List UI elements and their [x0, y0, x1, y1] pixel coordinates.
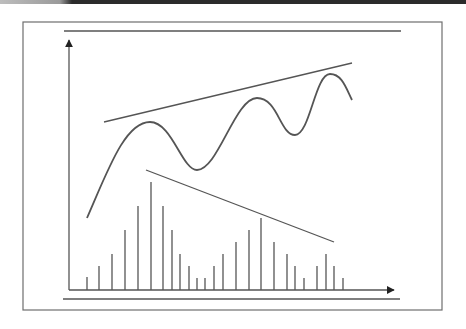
divergence-diagram — [0, 0, 466, 329]
price-curve — [87, 74, 352, 218]
volume-bars — [87, 182, 343, 290]
outer-frame — [23, 22, 442, 310]
lower-trend-line — [146, 170, 334, 242]
upper-trend-line — [104, 63, 352, 122]
